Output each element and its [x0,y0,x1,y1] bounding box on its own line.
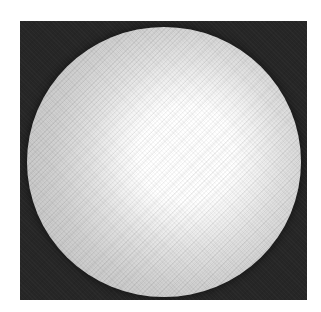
bright-circular-disc [27,27,301,297]
dark-square-frame [20,21,307,300]
image-canvas [0,0,321,312]
